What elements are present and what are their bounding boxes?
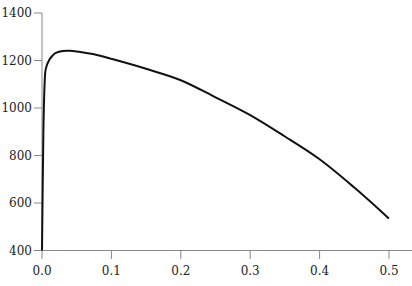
x-tick-label: 0.3: [241, 264, 260, 278]
series-line: [42, 51, 389, 251]
y-tick-label: 400: [9, 244, 32, 258]
y-tick-label: 1400: [1, 6, 32, 20]
x-tick-label: 0.5: [379, 264, 398, 278]
x-tick-label: 0.4: [310, 264, 329, 278]
y-tick-label: 800: [9, 149, 32, 163]
y-tick-label: 600: [9, 196, 32, 210]
line-chart: 400600800100012001400 0.00.10.20.30.40.5: [0, 0, 412, 286]
x-tick-label: 0.1: [102, 264, 121, 278]
y-tick-label: 1200: [1, 54, 32, 68]
y-tick-label: 1000: [1, 101, 32, 115]
y-ticks: 400600800100012001400: [1, 6, 42, 258]
x-tick-label: 0.0: [32, 264, 51, 278]
x-tick-label: 0.2: [171, 264, 190, 278]
x-ticks: 0.00.10.20.30.40.5: [32, 251, 398, 279]
series-group: [42, 51, 389, 251]
